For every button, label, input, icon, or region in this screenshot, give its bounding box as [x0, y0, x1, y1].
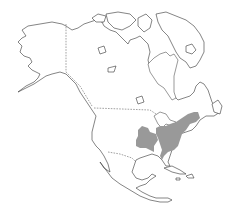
arctic-island	[106, 12, 136, 30]
north-america-map	[0, 0, 237, 217]
cuba	[164, 166, 186, 174]
arctic-island	[138, 14, 152, 32]
jamaica	[176, 178, 180, 180]
hispaniola	[186, 174, 194, 178]
